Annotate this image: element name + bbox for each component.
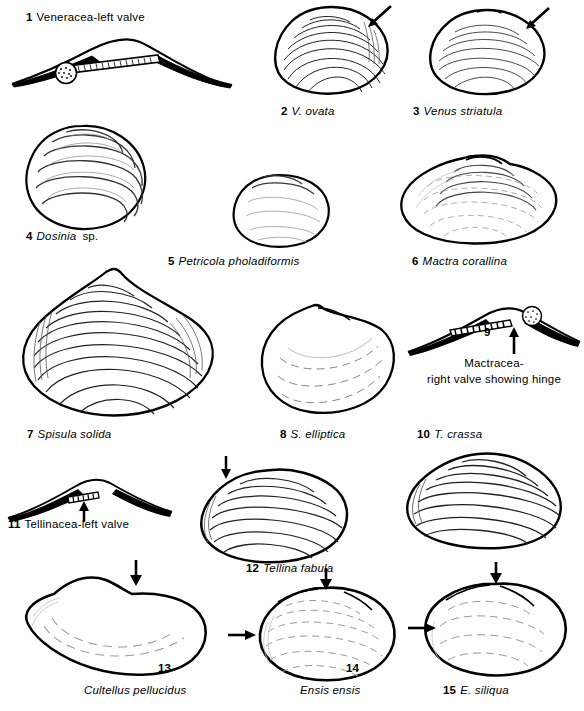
- figure-15-e-siliqua: [418, 576, 576, 680]
- figure-7-number: 7: [27, 428, 34, 440]
- caption-figure-9: Mactracea- right valve showing hinge: [405, 356, 583, 387]
- figure-11-tellinacea-hinge: [6, 472, 176, 524]
- figure-2-drawing: [272, 4, 392, 96]
- figure-3-number: 3: [413, 105, 420, 117]
- figure-6-number: 6: [412, 255, 419, 267]
- figure-1-number: 1: [26, 11, 33, 23]
- figure-11-number: 11: [8, 518, 21, 530]
- caption-figure-10: 10T. crassa: [417, 428, 482, 440]
- figure-15-label: E. siliqua: [460, 684, 509, 696]
- figure-7-drawing: [18, 266, 224, 418]
- figure-15-number: 15: [443, 684, 456, 696]
- figure-8-label: S. elliptica: [291, 428, 346, 440]
- figure-12-number: 12: [246, 562, 259, 574]
- caption-figure-12: 12Tellina fabula: [246, 562, 333, 574]
- caption-figure-2: 2V. ovata: [281, 105, 335, 117]
- figure-13-label: Cultellus pellucidus: [84, 684, 186, 696]
- figure-3-drawing: [425, 6, 553, 96]
- figure-15-arrow-left: [408, 620, 438, 636]
- figure-2-v-ovata: [272, 4, 392, 96]
- figure-10-t-crassa: [404, 450, 568, 552]
- figure-3-venus-striatula: [425, 6, 553, 96]
- figure-10-number: 10: [417, 428, 430, 440]
- figure-1-drawing: [8, 26, 238, 88]
- figure-4-number: 4: [26, 230, 33, 242]
- figure-5-drawing: [228, 172, 334, 250]
- illustration-plate: 1Veneracea-left valve: [0, 0, 584, 711]
- figure-10-drawing: [404, 450, 568, 552]
- figure-13-number: 13: [158, 662, 171, 674]
- figure-12-tellina-fabula: [198, 464, 352, 568]
- figure-6-drawing: [398, 152, 564, 248]
- figure-1-veneracea-hinge: [8, 26, 238, 88]
- caption-figure-13-number: 13: [158, 662, 175, 674]
- figure-9-arrow: [509, 327, 519, 354]
- caption-figure-4: 4Dosiniasp.: [26, 230, 98, 242]
- caption-figure-14: Ensis ensis: [300, 684, 360, 696]
- figure-1-label: Veneracea-left valve: [37, 11, 145, 23]
- caption-figure-9-number: 9: [484, 326, 494, 338]
- figure-14-arrow-left: [228, 627, 258, 643]
- figure-6-mactra-corallina: [398, 152, 564, 248]
- figure-4-dosinia: [22, 122, 152, 232]
- caption-figure-15: 15E. siliqua: [443, 684, 509, 696]
- caption-figure-6: 6Mactra corallina: [412, 255, 507, 267]
- figure-12-label: Tellina fabula: [263, 562, 333, 574]
- figure-4-genus: Dosinia: [37, 230, 77, 242]
- figure-9-label-line2: right valve showing hinge: [405, 372, 583, 388]
- caption-figure-11: 11Tellinacea-left valve: [8, 518, 129, 530]
- figure-14-number: 14: [346, 662, 359, 674]
- figure-14-ensis-ensis: [256, 582, 406, 686]
- figure-11-drawing: [6, 472, 176, 524]
- caption-figure-1: 1Veneracea-left valve: [26, 11, 145, 23]
- figure-13-cultellus-pellucidus: [18, 572, 228, 680]
- caption-figure-8: 8S. elliptica: [280, 428, 345, 440]
- figure-8-drawing: [258, 302, 398, 418]
- figure-6-label: Mactra corallina: [423, 255, 507, 267]
- figure-10-label: T. crassa: [434, 428, 482, 440]
- figure-5-petricola: [228, 172, 334, 250]
- figure-8-s-elliptica: [258, 302, 398, 418]
- figure-7-spisula-solida: [18, 266, 224, 418]
- figure-2-label: V. ovata: [292, 105, 335, 117]
- figure-2-arrow: [368, 6, 391, 27]
- figure-3-arrow: [526, 8, 549, 29]
- figure-9-number: 9: [484, 326, 490, 338]
- figure-4-species-abbrev: sp.: [82, 230, 98, 242]
- figure-3-label: Venus striatula: [424, 105, 503, 117]
- figure-11-label: Tellinacea-left valve: [25, 518, 130, 530]
- figure-14-label: Ensis ensis: [300, 684, 360, 696]
- figure-4-drawing: [22, 122, 152, 232]
- figure-15-arrow-top: [490, 562, 502, 584]
- caption-figure-13: Cultellus pellucidus: [84, 684, 186, 696]
- figure-9-label-line1: Mactracea-: [405, 356, 583, 372]
- figure-12-arrow: [221, 456, 231, 479]
- figure-12-drawing: [198, 464, 352, 568]
- figure-13-arrow: [130, 560, 142, 586]
- caption-figure-3: 3Venus striatula: [413, 105, 502, 117]
- figure-7-label: Spisula solida: [38, 428, 112, 440]
- figure-2-number: 2: [281, 105, 288, 117]
- figure-14-drawing: [256, 582, 406, 686]
- caption-figure-7: 7Spisula solida: [27, 428, 111, 440]
- figure-13-drawing: [18, 572, 228, 680]
- caption-figure-14-number: 14: [346, 662, 363, 674]
- figure-8-number: 8: [280, 428, 287, 440]
- figure-15-drawing: [418, 576, 576, 680]
